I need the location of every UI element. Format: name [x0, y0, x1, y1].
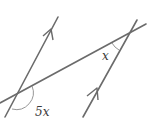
left-parallel-line — [5, 17, 58, 117]
angle-label-5x: 5x — [35, 105, 50, 119]
angle-arc-x — [112, 43, 119, 50]
transversal-line — [0, 24, 146, 103]
right-parallel-line — [83, 20, 137, 117]
parallel-lines-diagram: 5x x — [0, 0, 151, 123]
angle-label-x: x — [102, 49, 109, 63]
